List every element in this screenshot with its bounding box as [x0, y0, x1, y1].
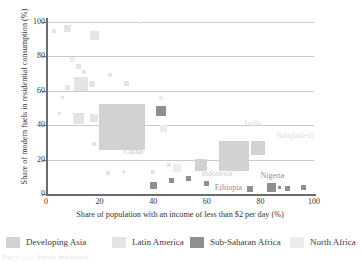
data-point: [285, 186, 290, 191]
data-point: [64, 25, 71, 32]
data-point: [99, 104, 145, 150]
data-point: [82, 70, 86, 74]
data-point: [150, 182, 157, 189]
data-point: [108, 73, 112, 77]
point-label: Nigeria: [260, 172, 284, 180]
data-point: [138, 21, 141, 24]
legend-item[interactable]: North Africa: [290, 232, 356, 252]
x-axis-title: Share of population with an income of le…: [40, 210, 320, 219]
data-point: [122, 170, 125, 173]
data-point: [65, 85, 70, 90]
point-label: Ethiopia: [215, 184, 242, 192]
legend-label: Sub-Saharan Africa: [210, 238, 281, 247]
gridline: [46, 56, 314, 57]
data-point: [278, 186, 281, 189]
data-point: [160, 125, 167, 132]
legend-swatch: [290, 237, 304, 248]
legend-swatch: [190, 237, 204, 248]
legend-label: Developing Asia: [26, 238, 86, 247]
data-point: [204, 181, 209, 186]
data-point: [70, 57, 75, 62]
data-point: [90, 31, 99, 40]
data-point: [156, 106, 166, 116]
x-tick-label: 100: [299, 198, 329, 206]
gridline: [46, 22, 314, 23]
y-axis-line: [46, 18, 48, 196]
data-point: [167, 163, 171, 167]
data-point: [247, 186, 253, 192]
data-point: [159, 96, 163, 100]
figure-caption: Figure 1.1 — Energy and poverty: [2, 254, 89, 260]
legend-item[interactable]: Latin America: [112, 232, 184, 252]
data-point: [76, 64, 81, 69]
point-label: India: [244, 120, 260, 128]
gridline: [46, 125, 314, 126]
data-point: [251, 141, 265, 155]
point-label: Bangladesh: [276, 132, 313, 140]
data-point: [90, 114, 98, 122]
y-tick-mark: [42, 22, 46, 23]
chart-container: ChinaIndiaBangladeshIndonesiaNigeriaEthi…: [0, 0, 363, 263]
point-label: China: [124, 148, 143, 156]
data-point: [267, 183, 276, 192]
legend-swatch: [112, 237, 126, 248]
y-tick-mark: [42, 91, 46, 92]
data-point: [61, 96, 64, 99]
point-label: Indonesia: [201, 170, 232, 178]
data-point: [151, 170, 155, 174]
y-tick-mark: [42, 194, 46, 195]
legend-item[interactable]: Sub-Saharan Africa: [190, 232, 281, 252]
legend-swatch: [6, 237, 20, 248]
data-point: [301, 185, 306, 190]
x-tick-label: 40: [138, 198, 168, 206]
plot-area: ChinaIndiaBangladeshIndonesiaNigeriaEthi…: [46, 22, 314, 194]
x-tick-label: 60: [192, 198, 222, 206]
data-point: [52, 29, 56, 33]
data-point: [73, 113, 84, 124]
data-point: [186, 176, 191, 181]
chart-legend: Developing AsiaLatin AmericaSub-Saharan …: [0, 232, 363, 252]
legend-label: Latin America: [132, 238, 184, 247]
y-tick-mark: [42, 160, 46, 161]
data-point: [173, 164, 181, 172]
gridline: [46, 91, 314, 92]
x-tick-label: 0: [31, 198, 61, 206]
data-point: [58, 112, 61, 115]
data-point: [169, 178, 174, 183]
data-point: [219, 141, 249, 171]
legend-label: North Africa: [310, 238, 356, 247]
data-point: [106, 171, 110, 175]
x-tick-label: 80: [245, 198, 275, 206]
data-point: [92, 142, 96, 146]
data-point: [124, 81, 129, 86]
y-tick-mark: [42, 56, 46, 57]
x-tick-label: 20: [85, 198, 115, 206]
legend-item[interactable]: Developing Asia: [6, 232, 86, 252]
gridline: [46, 160, 314, 161]
data-point: [74, 77, 88, 91]
data-point: [89, 81, 95, 87]
x-axis-line: [46, 194, 316, 196]
y-tick-mark: [42, 125, 46, 126]
